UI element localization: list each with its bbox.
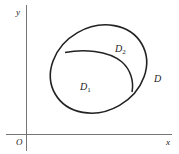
region-diagram (0, 0, 179, 154)
x-axis-label: x (166, 138, 170, 147)
dividing-curve (65, 51, 133, 92)
y-axis-label: y (16, 8, 20, 17)
region-d2-subscript: 2 (122, 48, 126, 56)
region-d-boundary (34, 8, 163, 131)
region-d1-subscript: 1 (87, 86, 91, 94)
origin-label: O (16, 138, 23, 147)
region-d-label: D (154, 74, 161, 84)
region-d1-label: D1 (80, 82, 91, 94)
region-d2-label: D2 (115, 44, 126, 56)
